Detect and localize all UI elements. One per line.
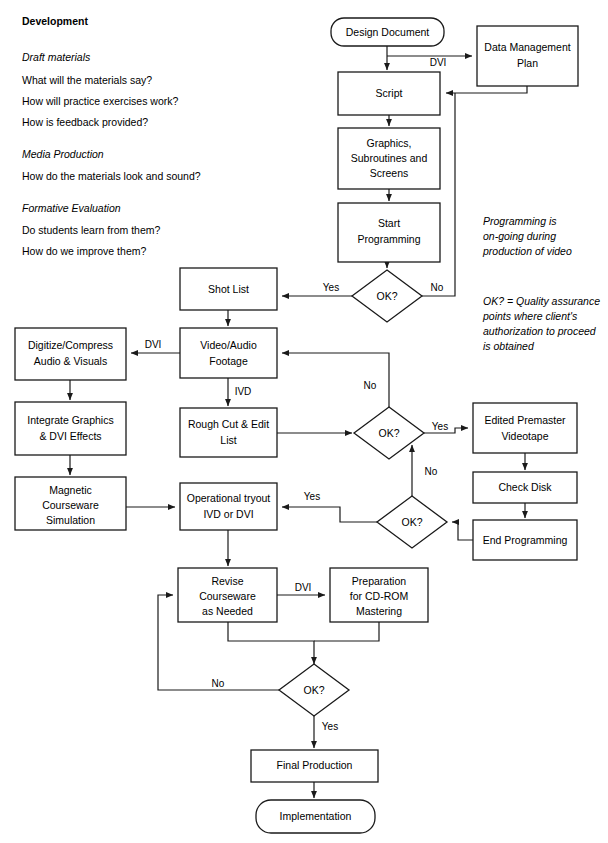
sidebar-line: How do the materials look and sound? (22, 170, 201, 182)
edge-label-ok1-no: No (431, 282, 444, 293)
node-label: Design Document (346, 26, 430, 38)
edge-label-ivd: IVD (235, 386, 252, 397)
node-label: Preparation (352, 575, 406, 587)
node-label: Check Disk (498, 481, 552, 493)
node-label: Start (378, 217, 400, 229)
edge-ok1-no-loop (422, 93, 455, 296)
node-label: IVD or DVI (203, 508, 253, 520)
node-label: Courseware (199, 590, 256, 602)
edge-label-ok2-no-top: No (364, 380, 377, 391)
node-label: Programming (357, 233, 420, 245)
node-design-document[interactable]: Design Document (331, 18, 444, 46)
node-start-programming[interactable]: Start Programming (338, 203, 440, 262)
node-label: Implementation (280, 810, 352, 822)
edge-label-ok2-yes: Yes (432, 421, 448, 432)
edge-endprog-to-ok3 (452, 522, 473, 540)
edge-preparation-to-ok4 (314, 622, 379, 641)
node-label: & DVI Effects (39, 430, 101, 442)
node-label: Revise (211, 575, 243, 587)
edge-dmp-to-script (446, 86, 527, 93)
note-line: Programming is (483, 215, 557, 227)
section-heading-draft-materials: Draft materials (22, 51, 91, 63)
node-label: List (220, 434, 236, 446)
note-line: points where client's (482, 310, 578, 322)
node-label: Shot List (208, 283, 249, 295)
node-label: Script (376, 87, 403, 99)
note-line: OK? = Quality assurance (483, 295, 600, 307)
edge-label-dvi-bottom: DVI (295, 582, 312, 593)
node-edited-premaster-videotape[interactable]: Edited Premaster Videotape (473, 403, 577, 453)
node-label: End Programming (483, 534, 568, 546)
node-label: Simulation (46, 514, 95, 526)
edge-label-ok3-yes: Yes (304, 491, 320, 502)
node-label: Video/Audio (200, 339, 257, 351)
edge-label-ok1-yes: Yes (323, 282, 339, 293)
node-label: Plan (517, 57, 538, 69)
note-line: on-going during (483, 230, 556, 242)
node-graphics-subroutines-screens[interactable]: Graphics, Subroutines and Screens (338, 128, 440, 189)
sidebar-line: How do we improve them? (22, 245, 146, 257)
node-label: OK? (376, 290, 397, 302)
node-magnetic-courseware[interactable]: Magnetic Courseware Simulation (15, 477, 126, 530)
section-heading-media-production: Media Production (22, 148, 104, 160)
node-label: Operational tryout (187, 492, 271, 504)
sidebar-line: What will the materials say? (22, 74, 152, 86)
node-label: Digitize/Compress (28, 339, 113, 351)
node-revise-courseware[interactable]: Revise Courseware as Needed (178, 568, 277, 622)
node-label: Final Production (277, 759, 353, 771)
sidebar-line: How is feedback provided? (22, 116, 148, 128)
note-line: authorization to proceed (483, 325, 597, 337)
edge-label-ok2-no-bottom: No (425, 466, 438, 477)
node-video-audio-footage[interactable]: Video/Audio Footage (180, 328, 277, 378)
node-shot-list[interactable]: Shot List (180, 268, 277, 310)
node-ok-decision-3[interactable]: OK? (377, 496, 447, 548)
node-label: OK? (303, 684, 324, 696)
node-label: Integrate Graphics (27, 414, 113, 426)
section-heading-formative-evaluation: Formative Evaluation (22, 202, 121, 214)
note-ok-legend: OK? = Quality assurance points where cli… (482, 295, 600, 352)
node-ok-decision-2[interactable]: OK? (354, 407, 424, 459)
development-flowchart: Development Draft materials What will th… (0, 0, 608, 843)
edge-label-ok4-yes: Yes (322, 721, 338, 732)
note-programming: Programming is on-going during productio… (482, 215, 572, 257)
node-operational-tryout[interactable]: Operational tryout IVD or DVI (180, 483, 277, 530)
edge-label-dvi-mid: DVI (145, 339, 162, 350)
node-label: Rough Cut & Edit (188, 418, 269, 430)
node-label: Edited Premaster (484, 414, 566, 426)
edge-label-ok4-no: No (212, 678, 225, 689)
node-label: Data Management (484, 41, 570, 53)
node-label: for CD-ROM (350, 590, 408, 602)
node-label: OK? (378, 427, 399, 439)
node-ok-decision-4[interactable]: OK? (279, 664, 349, 716)
node-integrate-graphics[interactable]: Integrate Graphics & DVI Effects (15, 402, 126, 455)
node-rough-cut-edit-list[interactable]: Rough Cut & Edit List (180, 408, 277, 457)
node-label: Magnetic (49, 484, 92, 496)
sidebar-line: Do students learn from them? (22, 224, 160, 236)
node-end-programming[interactable]: End Programming (473, 520, 577, 560)
node-check-disk[interactable]: Check Disk (473, 472, 577, 503)
note-line: is obtained (483, 340, 535, 352)
node-label: Graphics, (367, 137, 412, 149)
sidebar-line: How will practice exercises work? (22, 95, 179, 107)
node-label: Subroutines and (351, 152, 428, 164)
node-digitize-compress[interactable]: Digitize/Compress Audio & Visuals (15, 328, 126, 380)
node-label: Footage (209, 355, 248, 367)
edge-label-dvi-top: DVI (430, 57, 447, 68)
page-title: Development (22, 15, 88, 27)
node-ok-decision-1[interactable]: OK? (352, 270, 422, 322)
node-script[interactable]: Script (338, 72, 440, 115)
node-final-production[interactable]: Final Production (251, 750, 378, 782)
node-label: Videotape (501, 430, 548, 442)
node-label: Mastering (356, 605, 402, 617)
node-label: OK? (401, 516, 422, 528)
node-implementation[interactable]: Implementation (256, 800, 375, 833)
node-label: Courseware (42, 499, 99, 511)
node-label: Screens (370, 167, 409, 179)
node-data-management-plan[interactable]: Data Management Plan (477, 26, 578, 86)
flowchart-page: Development Draft materials What will th… (0, 0, 608, 843)
node-label: as Needed (202, 605, 253, 617)
note-line: production of video (482, 245, 572, 257)
edge-ok3-yes-to-tryout (282, 507, 377, 522)
node-preparation-cd-rom[interactable]: Preparation for CD-ROM Mastering (330, 568, 428, 622)
development-sidebar-panel: Development Draft materials What will th… (22, 15, 201, 257)
